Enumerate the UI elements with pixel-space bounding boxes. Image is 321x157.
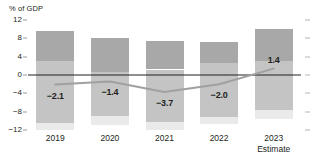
- x-axis-tick-label: 2022: [210, 133, 229, 144]
- x-axis-label-year: 2020: [100, 133, 119, 143]
- balance-line-series: [28, 20, 301, 130]
- right-axis-tick-mark: [305, 20, 310, 21]
- right-axis-tick-mark: [305, 111, 310, 112]
- x-axis-label-year: 2021: [155, 133, 174, 143]
- right-axis-tick-mark: [305, 38, 310, 39]
- x-axis-tick-label: 2021: [155, 133, 174, 144]
- right-axis-tick-mark: [305, 75, 310, 76]
- x-axis-tick-label: 2023Estimate: [257, 133, 290, 155]
- y-axis-tick-mark: [23, 38, 27, 39]
- y-axis-tick-mark: [23, 56, 27, 57]
- data-label: −2.1: [47, 91, 64, 101]
- x-axis-tick-label: 2019: [46, 133, 65, 144]
- data-label: 1.4: [268, 55, 280, 65]
- plot-area: 12840−4−8−12−2.1−1.4−3.7−2.01.4: [28, 20, 301, 130]
- y-axis-tick-mark: [23, 75, 27, 76]
- x-axis-label-year: 2022: [210, 133, 229, 143]
- right-axis-tick-mark: [305, 93, 310, 94]
- y-axis-tick-mark: [23, 20, 27, 21]
- x-axis-tick-label: 2020: [100, 133, 119, 144]
- data-label: −1.4: [101, 87, 118, 97]
- chart-container: % of GDP 12840−4−8−12−2.1−1.4−3.7−2.01.4…: [0, 0, 321, 157]
- balance-line-path: [55, 69, 273, 92]
- right-axis-tick-mark: [305, 56, 310, 57]
- x-axis-label-note: Estimate: [257, 144, 290, 155]
- data-label: −2.0: [211, 90, 228, 100]
- right-axis-tick-mark: [305, 130, 310, 131]
- x-axis-label-year: 2023: [264, 133, 283, 143]
- y-axis-title: % of GDP: [9, 4, 43, 13]
- data-label: −3.7: [156, 98, 173, 108]
- y-axis-tick-mark: [23, 130, 27, 131]
- x-axis-label-year: 2019: [46, 133, 65, 143]
- y-axis-tick-mark: [23, 111, 27, 112]
- y-axis-tick-mark: [23, 93, 27, 94]
